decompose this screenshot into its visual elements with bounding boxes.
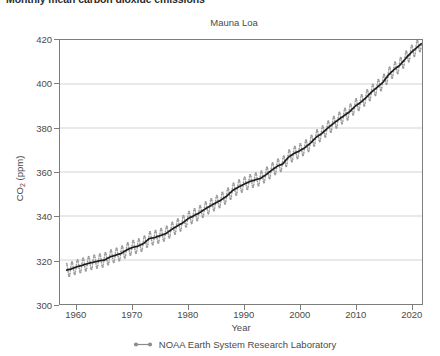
monthly-data-point: [399, 59, 401, 61]
monthly-data-point: [124, 257, 126, 259]
monthly-data-point: [253, 184, 255, 186]
monthly-data-point: [233, 184, 235, 186]
monthly-data-point: [192, 220, 194, 222]
monthly-data-point: [177, 218, 179, 220]
monthly-data-point: [148, 236, 150, 238]
monthly-data-point: [212, 206, 214, 208]
monthly-data-point: [141, 250, 143, 252]
monthly-data-point: [245, 184, 247, 186]
monthly-data-point: [152, 244, 154, 246]
monthly-data-point: [186, 226, 188, 228]
monthly-data-point: [264, 181, 266, 183]
monthly-data-point: [175, 231, 177, 233]
monthly-data-point: [361, 94, 363, 96]
legend-marker-icon: [132, 340, 154, 349]
monthly-data-point: [66, 265, 68, 267]
monthly-data-point: [386, 83, 388, 85]
monthly-data-point: [281, 168, 283, 170]
monthly-data-point: [113, 261, 115, 263]
monthly-data-point: [250, 176, 252, 178]
chart-subtitle: Mauna Loa: [0, 17, 440, 28]
monthly-data-point: [257, 180, 259, 182]
monthly-data-point: [183, 216, 185, 218]
monthly-data-point: [255, 172, 257, 174]
monthly-data-point: [355, 98, 357, 100]
monthly-data-point: [89, 258, 91, 260]
monthly-data-point: [346, 115, 348, 117]
monthly-data-point: [270, 175, 272, 177]
monthly-data-point: [275, 171, 277, 173]
monthly-data-point: [83, 259, 85, 261]
monthly-data-point: [191, 222, 193, 224]
monthly-data-point: [200, 206, 202, 208]
monthly-data-point: [337, 117, 339, 119]
x-axis-tick-label: 1980: [158, 309, 218, 320]
monthly-data-point: [381, 87, 383, 89]
monthly-data-point: [300, 143, 302, 145]
monthly-data-point: [296, 154, 298, 156]
monthly-data-point: [94, 255, 96, 257]
monthly-data-point: [409, 58, 411, 60]
monthly-data-point: [345, 109, 347, 111]
monthly-data-point: [336, 124, 338, 126]
monthly-data-point: [99, 253, 101, 255]
monthly-data-point: [293, 151, 295, 153]
monthly-data-point: [102, 266, 104, 268]
monthly-data-point: [289, 149, 291, 151]
monthly-data-point: [339, 112, 341, 114]
monthly-data-point: [108, 261, 110, 263]
monthly-data-point: [319, 140, 321, 142]
chart-title: Monthly mean carbon dioxide emissions: [6, 0, 205, 5]
monthly-data-point: [372, 83, 374, 85]
monthly-data-point: [103, 264, 105, 266]
monthly-data-point: [216, 195, 218, 197]
monthly-data-point: [214, 207, 216, 209]
y-axis-tick-label: 400: [0, 78, 52, 89]
monthly-data-point: [261, 172, 263, 174]
monthly-data-point: [173, 229, 175, 231]
monthly-data-point: [180, 230, 182, 232]
monthly-data-point: [417, 41, 419, 43]
monthly-data-point: [298, 148, 300, 150]
monthly-data-point: [155, 230, 157, 232]
monthly-data-point: [80, 271, 82, 273]
y-axis-tick-label: 380: [0, 122, 52, 133]
monthly-data-point: [294, 146, 296, 148]
monthly-data-point: [183, 215, 185, 217]
monthly-data-point: [85, 270, 87, 272]
monthly-data-point: [114, 259, 116, 261]
monthly-data-point: [344, 108, 346, 110]
monthly-data-point: [88, 256, 90, 258]
monthly-data-point: [389, 66, 391, 68]
monthly-data-point: [317, 131, 319, 133]
monthly-data-point: [201, 213, 203, 215]
monthly-data-point: [311, 136, 313, 138]
monthly-data-point: [161, 228, 163, 230]
monthly-data-point: [276, 164, 278, 166]
monthly-data-point: [151, 239, 153, 241]
monthly-data-point: [269, 177, 271, 179]
monthly-data-point: [291, 160, 293, 162]
monthly-data-point: [203, 214, 205, 216]
monthly-data-point: [178, 220, 180, 222]
monthly-data-point: [222, 193, 224, 195]
monthly-data-point: [159, 233, 161, 235]
x-axis-tick-label: 1990: [214, 309, 274, 320]
monthly-data-point: [314, 142, 316, 144]
monthly-data-point: [112, 257, 114, 259]
monthly-data-point: [136, 250, 138, 252]
monthly-data-point: [172, 222, 174, 224]
monthly-data-point: [227, 187, 229, 189]
monthly-data-point: [98, 258, 100, 260]
monthly-data-point: [325, 133, 327, 135]
monthly-series-zigzag: [67, 40, 422, 276]
y-axis-tick-label: 320: [0, 255, 52, 266]
monthly-data-point: [322, 125, 324, 127]
y-axis-tick-mark: [54, 305, 59, 306]
monthly-data-point: [204, 206, 206, 208]
monthly-data-point: [272, 162, 274, 164]
monthly-data-point: [218, 203, 220, 205]
monthly-data-point: [256, 174, 258, 176]
monthly-data-point: [123, 253, 125, 255]
monthly-data-point: [219, 204, 221, 206]
